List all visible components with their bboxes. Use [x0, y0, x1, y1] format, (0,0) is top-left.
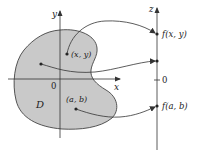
point-fxy — [155, 32, 158, 35]
origin-label: 0 — [51, 81, 56, 91]
z-axis-label: z — [148, 4, 154, 14]
region-d — [14, 30, 117, 130]
region-label: D — [35, 99, 44, 110]
point-f-unlabeled — [155, 59, 158, 62]
fab-label: f(a, b) — [161, 101, 188, 111]
y-axis-label: y — [51, 9, 58, 19]
point-ab-label: (a, b) — [66, 95, 87, 104]
diagram-canvas: y x 0 D (x, y) (a, b) z f(x, y) 0 f(a, b… — [0, 0, 200, 158]
point-xy-label: (x, y) — [71, 50, 91, 59]
fxy-label: f(x, y) — [161, 29, 187, 39]
point-fab — [155, 104, 158, 107]
z-origin-label: 0 — [162, 75, 167, 85]
function-mapping-diagram: y x 0 D (x, y) (a, b) z f(x, y) 0 f(a, b… — [0, 0, 200, 158]
x-axis-label: x — [114, 82, 119, 92]
